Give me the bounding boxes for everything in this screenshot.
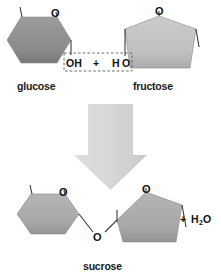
reaction-arrow (74, 104, 147, 190)
fructose-molecule: O fructose (125, 5, 199, 92)
sucrose-glycosidic-oxygen-label: O (93, 231, 102, 243)
glucose-ring-oxygen-label: O (51, 7, 60, 19)
sucrose-fructose-ring-oxygen-label: O (142, 183, 151, 195)
fructose-ring-oxygen-label: O (155, 5, 164, 17)
sucrose-bond-bridge-to-right (105, 220, 117, 232)
sucrose-bond-left-to-bridge (79, 214, 93, 232)
reaction-diagram-canvas: O glucose O fructose OH + H O (0, 0, 221, 276)
glucose-molecule: O glucose (7, 7, 71, 92)
glucose-label: glucose (17, 80, 56, 92)
fructose-ring-pentagon (125, 16, 196, 68)
sucrose-molecule: O O O sucrose (17, 183, 186, 272)
fructose-label: fructose (133, 80, 173, 92)
glucose-bond-upper-left (20, 7, 22, 17)
sucrose-label: sucrose (83, 260, 122, 272)
water-byproduct: + H 2 O (180, 213, 211, 226)
glucose-hydroxyl-label: OH (66, 57, 82, 69)
fructose-oxygen-label: O (122, 57, 130, 69)
fructose-hydrogen-label: H (112, 57, 120, 69)
reactants-plus-sign: + (93, 57, 99, 69)
glucose-ring-hexagon (7, 17, 71, 63)
byproduct-hydrogen-label: H (191, 213, 199, 225)
sucrose-fructose-ring-pentagon (117, 192, 182, 242)
sucrose-glucose-ring-oxygen-label: O (59, 186, 68, 198)
fructose-bond-right-stick (196, 29, 199, 47)
byproduct-oxygen-label: O (203, 213, 211, 225)
sucrose-glucose-bond-upper-left (30, 185, 32, 194)
byproduct-plus-sign: + (180, 213, 186, 225)
sucrose-glucose-ring-hexagon (17, 194, 79, 234)
reaction-diagram-svg: O glucose O fructose OH + H O (0, 0, 221, 276)
